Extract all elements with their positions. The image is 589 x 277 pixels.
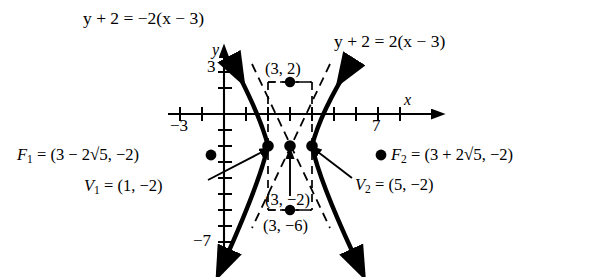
focus-right-label: F2 = (3 + 2√5, −2) <box>391 146 513 166</box>
y-tick-label-3: 3 <box>207 58 216 75</box>
point-center <box>284 140 296 152</box>
point-label-3-2: (3, 2) <box>265 61 301 78</box>
x-axis-label: x <box>404 92 411 108</box>
hyperbola-left-branch <box>228 60 268 253</box>
vertex-right-symbol: V <box>355 175 365 194</box>
y-tick-label-minus7: −7 <box>193 232 211 249</box>
point-label-3-minus6: (3, −6) <box>263 218 308 235</box>
vertex-left-label: V1 = (1, −2) <box>84 178 162 197</box>
vertex-left-symbol: V <box>84 176 94 195</box>
focus-right-equation-a: = (3 + 2 <box>407 145 464 164</box>
vertex-right-label: V2 = (5, −2) <box>355 177 433 196</box>
focus-left-label: F1 = (3 − 2√5, −2) <box>17 146 139 166</box>
x-axis <box>168 107 433 121</box>
hyperbola-figure: y + 2 = −2(x − 3) y + 2 = 2(x − 3) y x 3… <box>0 0 589 277</box>
focus-left-equation-a: = (3 − 2 <box>33 145 90 164</box>
focus-left-equation-b: , −2) <box>108 145 139 164</box>
x-tick-label-7: 7 <box>372 117 381 134</box>
point-vertex-right <box>306 140 318 152</box>
vertex-left-equation: = (1, −2) <box>100 176 163 195</box>
focus-left-radical: √5 <box>90 145 108 164</box>
hyperbola-right-branch <box>312 62 353 253</box>
point-focus-left <box>206 150 217 161</box>
y-axis-label: y <box>212 42 219 58</box>
asymptote-negative-equation: y + 2 = −2(x − 3) <box>83 10 204 28</box>
point-3-2-top <box>285 77 295 87</box>
x-tick-label-minus3: −3 <box>170 117 188 134</box>
point-label-center-3-minus2: (3, −2) <box>265 192 310 209</box>
focus-right-equation-b: , −2) <box>482 145 513 164</box>
asymptote-positive-equation: y + 2 = 2(x − 3) <box>334 33 445 51</box>
focus-left-symbol: F <box>17 145 27 164</box>
hyperbola-graph-svg <box>0 0 589 277</box>
y-axis <box>218 56 232 258</box>
point-focus-right <box>376 150 387 161</box>
focus-right-radical: √5 <box>464 145 482 164</box>
point-vertex-left <box>262 140 274 152</box>
vertex-right-equation: = (5, −2) <box>371 175 434 194</box>
focus-right-symbol: F <box>391 145 401 164</box>
leader-v2 <box>318 152 352 178</box>
